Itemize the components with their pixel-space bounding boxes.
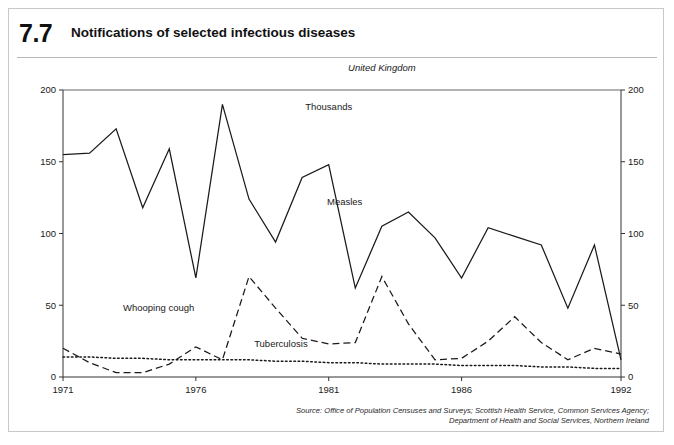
- x-tick-label: 1986: [451, 384, 472, 395]
- y-tick-label-left: 50: [45, 300, 56, 311]
- chart-subtitle: United Kingdom: [348, 62, 416, 73]
- y-tick-label-left: 150: [40, 156, 56, 167]
- axis-frame: [63, 90, 621, 377]
- y-tick-label-right: 0: [628, 371, 633, 382]
- y-axis-right: 050100150200: [621, 84, 644, 382]
- source-line-2: Department of Health and Social Services…: [449, 416, 650, 425]
- source-line-1: Source: Office of Population Censuses an…: [296, 406, 649, 415]
- x-tick-label: 1976: [185, 384, 206, 395]
- y-tick-label-left: 0: [51, 371, 56, 382]
- y-tick-label-right: 200: [628, 84, 644, 95]
- y-axis-left: 050100150200: [40, 84, 63, 382]
- chart-area: United Kingdom 050100150200 050100150200…: [9, 9, 665, 433]
- annotation-measles: Measles: [327, 196, 363, 207]
- y-tick-label-left: 100: [40, 228, 56, 239]
- x-tick-label: 1981: [318, 384, 339, 395]
- series-line-measles: [63, 104, 621, 359]
- annotation-thousands: Thousands: [305, 101, 352, 112]
- series-line-tuberculosis: [63, 357, 621, 368]
- y-tick-label-left: 200: [40, 84, 56, 95]
- infectious-diseases-line-chart: United Kingdom 050100150200 050100150200…: [9, 9, 665, 433]
- chart-subtitle-group: United Kingdom: [348, 62, 416, 73]
- annotation-tuberculosis: Tuberculosis: [254, 338, 308, 349]
- x-tick-label: 1992: [610, 384, 631, 395]
- y-tick-label-right: 150: [628, 156, 644, 167]
- figure-card: 7.7 Notifications of selected infectious…: [8, 8, 664, 432]
- y-tick-label-right: 100: [628, 228, 644, 239]
- y-tick-label-right: 50: [628, 300, 639, 311]
- x-axis: 19711976198119861992: [52, 377, 631, 395]
- data-series-group: [63, 104, 621, 372]
- annotation-group: ThousandsMeaslesWhooping coughTuberculos…: [123, 101, 363, 349]
- source-note: Source: Office of Population Censuses an…: [296, 406, 650, 425]
- x-tick-label: 1971: [52, 384, 73, 395]
- annotation-whooping-cough: Whooping cough: [123, 302, 194, 313]
